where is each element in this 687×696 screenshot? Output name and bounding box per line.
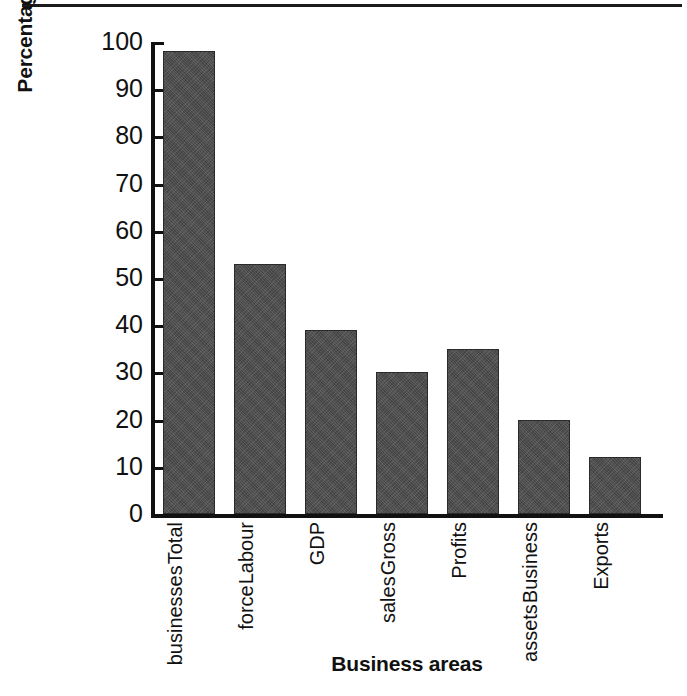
y-axis-title: Percentage contributed by small business — [4, 0, 46, 102]
plot-area: 0102030405060708090100 — [151, 42, 663, 514]
chart-page: Percentage contributed by small business… — [0, 0, 687, 696]
bar — [518, 420, 570, 514]
x-category-label: Labourforce — [234, 522, 286, 650]
x-category-word: Exports — [589, 522, 613, 590]
y-tick-label: 20 — [83, 406, 143, 432]
x-category-word: Business — [518, 522, 542, 603]
bar — [589, 457, 641, 514]
bar — [447, 349, 499, 514]
x-category-label: Businessassets — [518, 522, 570, 650]
x-category-label: Grosssales — [376, 522, 428, 650]
x-category-word: Profits — [447, 522, 471, 579]
x-category-word: businesses — [163, 565, 187, 665]
x-category-word: force — [234, 585, 258, 629]
x-category-word: Gross — [376, 522, 400, 575]
bar-series — [163, 42, 663, 514]
y-tick-mark — [151, 514, 164, 517]
y-tick-label: 60 — [83, 217, 143, 243]
y-tick-label: 0 — [83, 500, 143, 526]
bar — [305, 330, 357, 514]
bar — [163, 51, 215, 514]
bar — [234, 264, 286, 514]
x-category-word: Labour — [234, 522, 258, 584]
bar — [376, 372, 428, 514]
y-tick-label: 80 — [83, 122, 143, 148]
x-category-word: sales — [376, 576, 400, 623]
y-tick-label: 90 — [83, 75, 143, 101]
y-tick-label: 50 — [83, 264, 143, 290]
x-category-label: GDP — [305, 522, 357, 650]
x-axis-category-labels: TotalbusinessesLabourforceGDPGrosssalesP… — [163, 522, 675, 650]
page-rule-top — [22, 4, 682, 7]
y-tick-label: 100 — [83, 28, 143, 54]
x-category-label: Totalbusinesses — [163, 522, 215, 650]
x-category-label: Exports — [589, 522, 641, 650]
y-tick-label: 10 — [83, 453, 143, 479]
y-tick-label: 70 — [83, 170, 143, 196]
y-tick-label: 40 — [83, 311, 143, 337]
x-axis-line — [151, 514, 663, 518]
x-category-word: GDP — [305, 522, 329, 565]
x-category-word: Total — [163, 522, 187, 564]
x-axis-title: Business areas — [151, 652, 663, 676]
x-category-label: Profits — [447, 522, 499, 650]
y-tick-label: 30 — [83, 358, 143, 384]
